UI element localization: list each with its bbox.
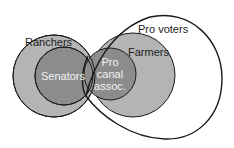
pro-canal-label-line-2: canal: [97, 68, 123, 80]
ranchers-label: Ranchers: [25, 36, 73, 48]
pro-canal-label-line-3: assoc.: [94, 80, 126, 92]
senators-label: Senators: [41, 70, 86, 82]
pro-voters-label: Pro voters: [138, 23, 189, 35]
pro-canal-label-line-1: Pro: [101, 56, 118, 68]
farmers-label: Farmers: [128, 46, 169, 58]
venn-diagram: Ranchers Senators Farmers Pro canal asso…: [0, 0, 234, 148]
